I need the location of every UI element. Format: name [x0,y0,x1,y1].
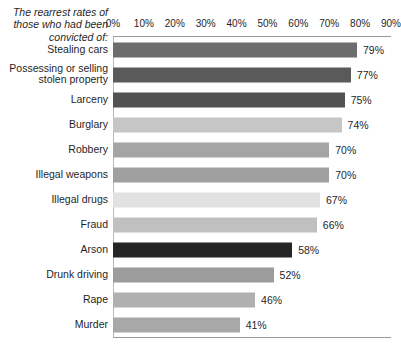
bar [113,142,329,157]
x-axis-tick-row: 0%10%20%30%40%50%60%70%80%90% [113,18,390,33]
category-label: Illegal weapons [0,169,108,181]
category-label: Arson [0,244,108,256]
bar [113,167,329,182]
x-axis-tick-80: 80% [350,18,370,29]
bar-value-label: 66% [323,219,344,231]
bar [113,192,320,207]
category-label: Burglary [0,119,108,131]
bar-value-label: 67% [326,194,347,206]
bar-row: Murder41% [0,312,400,337]
bar-value-label: 70% [335,144,356,156]
bar-value-label: 46% [261,294,282,306]
x-axis-tick-70: 70% [319,18,339,29]
category-label: Fraud [0,219,108,231]
category-label: Rape [0,294,108,306]
x-axis-tick-60: 60% [288,18,308,29]
bar-value-label: 77% [357,69,378,81]
bar-value-label: 52% [280,269,301,281]
bar-row: Illegal drugs67% [0,187,400,212]
bar-row: Illegal weapons70% [0,162,400,187]
bar [113,42,357,57]
x-axis-tick-90: 90% [381,18,401,29]
bar [113,267,274,282]
category-label: Larceny [0,94,108,106]
bar [113,67,351,82]
category-label: Possessing or selling stolen property [0,63,108,86]
bar-row: Possessing or selling stolen property77% [0,62,400,87]
bar-row: Fraud66% [0,212,400,237]
x-axis-tick-40: 40% [227,18,247,29]
bar [113,317,240,332]
bar [113,217,317,232]
bar-row: Robbery70% [0,137,400,162]
x-axis-tick-30: 30% [196,18,216,29]
bar-value-label: 58% [298,244,319,256]
bar-value-label: 70% [335,169,356,181]
bar-value-label: 79% [363,44,384,56]
bar [113,117,342,132]
category-label: Stealing cars [0,44,108,56]
bar-value-label: 75% [351,94,372,106]
bar-value-label: 74% [348,119,369,131]
x-axis-tick-20: 20% [165,18,185,29]
bar [113,92,345,107]
bar-row: Rape46% [0,287,400,312]
bar-row: Larceny75% [0,87,400,112]
category-label: Drunk driving [0,269,108,281]
bar-row: Drunk driving52% [0,262,400,287]
x-axis-tick-50: 50% [257,18,277,29]
category-label: Robbery [0,144,108,156]
category-label: Murder [0,319,108,331]
axis-line-bottom [113,337,391,338]
bar-row: Burglary74% [0,112,400,137]
category-label: Illegal drugs [0,194,108,206]
bar [113,242,292,257]
bar-row: Arson58% [0,237,400,262]
x-axis-tick-10: 10% [134,18,154,29]
x-axis-tick-0: 0% [106,18,120,29]
bar [113,292,255,307]
bar-value-label: 41% [246,319,267,331]
bar-row: Stealing cars79% [0,37,400,62]
